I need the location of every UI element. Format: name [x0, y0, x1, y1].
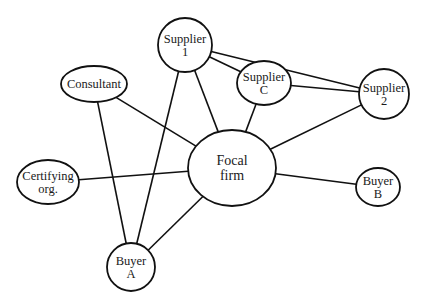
- edge-supplier2-focal: [270, 105, 361, 149]
- node-label-line2: 2: [381, 94, 387, 108]
- node-supplier1: Supplier1: [158, 18, 212, 72]
- edge-supplier1-buyerA: [137, 71, 179, 244]
- node-label: Consultant: [67, 77, 122, 91]
- node-label-line1: Supplier: [243, 70, 286, 84]
- node-label-line1: Buyer: [116, 254, 147, 268]
- edge-certifying-focal: [79, 171, 188, 179]
- node-label-line2: B: [374, 187, 382, 201]
- node-label-line2: C: [260, 83, 268, 97]
- node-certifying: Certifyingorg.: [17, 160, 79, 204]
- node-buyerA: BuyerA: [107, 243, 155, 291]
- node-buyerB: BuyerB: [356, 168, 400, 206]
- node-label-line1: Supplier: [363, 81, 406, 95]
- edge-supplier1-supplierC: [209, 57, 240, 72]
- edge-supplier1-focal: [195, 70, 219, 132]
- node-label-line2: A: [126, 267, 135, 281]
- node-label-line2: firm: [220, 168, 244, 183]
- node-label-line1: Focal: [216, 153, 247, 168]
- node-focal: Focalfirm: [188, 130, 276, 206]
- edge-focal-buyerA: [148, 197, 203, 251]
- node-label-line1: Buyer: [363, 174, 394, 188]
- network-diagram: Supplier1ConsultantSupplierCSupplier2Foc…: [0, 0, 421, 304]
- edge-supplierC-focal: [246, 104, 257, 132]
- edge-supplierC-supplier2: [291, 86, 359, 92]
- node-label-line1: Certifying: [22, 169, 74, 183]
- edge-consultant-buyerA: [98, 102, 127, 244]
- node-supplierC: SupplierC: [237, 61, 291, 105]
- node-consultant: Consultant: [61, 66, 127, 102]
- node-label-line2: 1: [182, 45, 188, 59]
- node-label-line2: org.: [38, 182, 58, 196]
- edge-focal-buyerB: [276, 174, 357, 185]
- node-supplier2: Supplier2: [359, 69, 409, 119]
- edge-consultant-focal: [116, 97, 196, 146]
- node-label-line1: Supplier: [164, 32, 207, 46]
